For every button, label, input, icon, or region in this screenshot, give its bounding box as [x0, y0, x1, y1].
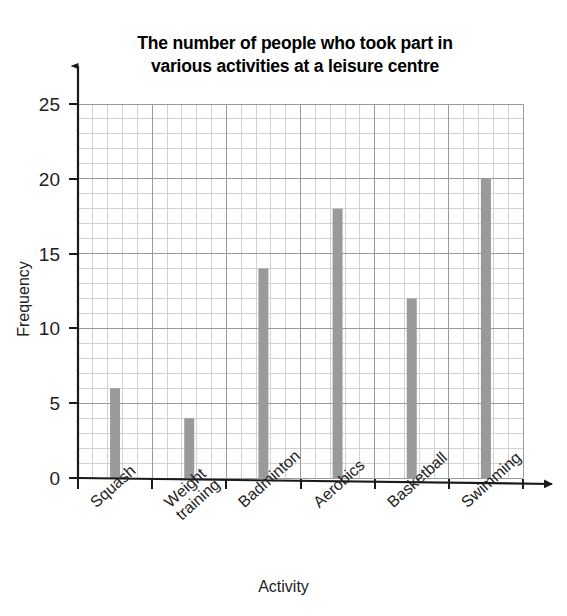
y-tick-label: 0 [26, 469, 60, 488]
bar [333, 209, 343, 478]
bar [407, 298, 417, 478]
grid-major [78, 104, 523, 478]
y-tick-label: 20 [26, 170, 60, 189]
plot-area: 0510152025 SquashWeighttrainingBadminton… [0, 0, 567, 616]
plot-svg [0, 0, 567, 616]
x-axis-label: Activity [0, 578, 567, 596]
y-axis-label: Frequency [15, 239, 33, 359]
bar-chart: The number of people who took part in va… [0, 0, 567, 616]
bar [110, 388, 120, 478]
bar [481, 179, 491, 478]
y-tick-label: 5 [26, 394, 60, 413]
bar [258, 269, 268, 478]
y-tick-label: 25 [26, 95, 60, 114]
